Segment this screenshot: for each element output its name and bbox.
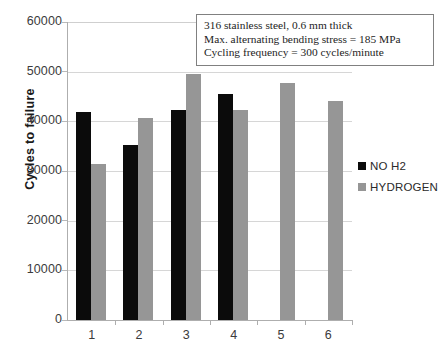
bar (233, 110, 248, 320)
y-axis-tick-text: 30000 (8, 163, 62, 177)
bar (91, 164, 106, 320)
plot-area: 123456 (67, 22, 352, 321)
y-axis-tick-text: 20000 (8, 213, 62, 227)
legend-label: NO H2 (370, 160, 406, 172)
y-axis-tick-text: 10000 (8, 262, 62, 276)
bar-group (210, 22, 257, 320)
bar-groups (68, 22, 352, 320)
x-axis-tick-label: 1 (72, 328, 112, 342)
y-axis-tick-label: 40000 (4, 113, 62, 129)
bar-group (257, 22, 304, 320)
bar-group (305, 22, 352, 320)
x-axis-tick-mark (305, 320, 306, 325)
y-axis-tick-label: 20000 (4, 213, 62, 229)
bar (171, 110, 186, 320)
x-axis-tick-label: 3 (166, 328, 206, 342)
x-axis-tick-mark (210, 320, 211, 325)
bar-group (163, 22, 210, 320)
y-axis-tick-label: 50000 (4, 64, 62, 80)
bar (328, 101, 343, 320)
bar (186, 74, 201, 320)
annotation-line: Cycling frequency = 300 cycles/minute (204, 46, 427, 60)
annotation-textbox: 316 stainless steel, 0.6 mm thickMax. al… (196, 14, 434, 66)
bar (218, 94, 233, 320)
y-axis-tick-labels: 6000050000400003000020000100000 (4, 0, 62, 361)
bar (123, 145, 138, 320)
annotation-line: Max. alternating bending stress = 185 MP… (204, 33, 427, 47)
bar (138, 118, 153, 320)
bar-chart: Cycles to failure 6000050000400003000020… (0, 0, 448, 361)
legend-swatch (358, 162, 366, 170)
x-axis-tick-label: 6 (308, 328, 348, 342)
y-axis-tick-label: 60000 (4, 14, 62, 30)
bar-group (68, 22, 115, 320)
y-axis-tick-text: 40000 (8, 113, 62, 127)
x-axis-tick-mark (163, 320, 164, 325)
x-axis-tick-label: 2 (119, 328, 159, 342)
y-axis-tick-label: 10000 (4, 262, 62, 278)
x-axis-tick-mark (115, 320, 116, 325)
annotation-line: 316 stainless steel, 0.6 mm thick (204, 19, 427, 33)
bar (280, 83, 295, 320)
x-axis-tick-label: 4 (214, 328, 254, 342)
y-axis-tick-text: 0 (8, 312, 62, 326)
x-axis-tick-mark (257, 320, 258, 325)
y-axis-tick-label: 30000 (4, 163, 62, 179)
y-axis-tick-label: 0 (4, 312, 62, 328)
legend-item: HYDROGEN (358, 178, 446, 195)
legend-label: HYDROGEN (370, 181, 438, 193)
y-axis-tick-text: 60000 (8, 14, 62, 28)
bar (76, 112, 91, 320)
legend-item: NO H2 (358, 157, 446, 174)
legend-swatch (358, 183, 366, 191)
chart-legend: NO H2HYDROGEN (358, 157, 446, 199)
x-axis-tick-label: 5 (261, 328, 301, 342)
bar-group (115, 22, 162, 320)
x-axis-tick-mark (352, 320, 353, 325)
y-axis-tick-text: 50000 (8, 64, 62, 78)
